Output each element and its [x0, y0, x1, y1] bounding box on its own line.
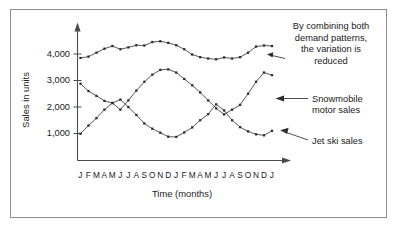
- data-point-marker: [143, 122, 145, 124]
- y-axis-title: Sales in units: [20, 72, 31, 128]
- combined-leader-arrowhead: [267, 52, 273, 57]
- data-point-marker: [239, 126, 241, 128]
- x-tick-label: N: [157, 170, 163, 180]
- data-point-marker: [199, 91, 201, 93]
- data-point-marker: [167, 136, 169, 138]
- data-point-marker: [103, 48, 105, 50]
- x-tick-label: J: [174, 170, 178, 180]
- data-point-marker: [167, 68, 169, 70]
- chart-figure: 4,000 3,000 2,000 1,000 Sales in units J…: [0, 0, 398, 229]
- data-point-marker: [143, 81, 145, 83]
- data-point-marker: [215, 103, 217, 105]
- data-point-marker: [135, 89, 137, 91]
- jetski-leader-line: [285, 132, 308, 140]
- data-point-marker: [199, 119, 201, 121]
- data-point-marker: [223, 109, 225, 111]
- data-point-marker: [127, 46, 129, 48]
- x-tick-label: A: [229, 170, 235, 180]
- x-tick-label: J: [270, 170, 274, 180]
- data-point-marker: [127, 106, 129, 108]
- series-line: [81, 41, 273, 59]
- x-tick-label: J: [78, 170, 82, 180]
- data-point-marker: [247, 93, 249, 95]
- data-point-marker: [231, 109, 233, 111]
- data-point-marker: [175, 71, 177, 73]
- x-tick-label: J: [126, 170, 130, 180]
- x-tick-label: D: [165, 170, 171, 180]
- data-point-marker: [119, 109, 121, 111]
- data-point-marker: [151, 74, 153, 76]
- data-point-marker: [231, 119, 233, 121]
- data-point-marker: [175, 136, 177, 138]
- data-series-group: [79, 40, 273, 138]
- y-tick-label-1000: 1,000: [47, 128, 70, 138]
- data-point-marker: [207, 113, 209, 115]
- data-point-marker: [271, 45, 273, 47]
- data-point-marker: [87, 124, 89, 126]
- y-tick-labels: 4,000 3,000 2,000 1,000: [47, 49, 70, 139]
- data-point-marker: [111, 102, 113, 104]
- x-tick-label: D: [261, 170, 267, 180]
- combined-annotation: By combining both demand patterns, the v…: [293, 21, 370, 66]
- x-tick-label: O: [149, 170, 156, 180]
- data-point-marker: [79, 57, 81, 59]
- x-tick-label: M: [189, 170, 196, 180]
- data-point-marker: [151, 128, 153, 130]
- data-point-marker: [247, 52, 249, 54]
- data-point-marker: [159, 40, 161, 42]
- data-point-marker: [263, 71, 265, 73]
- data-point-marker: [207, 99, 209, 101]
- data-point-marker: [183, 78, 185, 80]
- snowmobile-annotation: Snowmobile motor sales: [312, 94, 363, 116]
- data-point-marker: [135, 44, 137, 46]
- data-point-marker: [151, 41, 153, 43]
- data-point-marker: [191, 53, 193, 55]
- y-tick-label-4000: 4,000: [47, 49, 70, 59]
- data-point-marker: [223, 113, 225, 115]
- data-point-marker: [95, 52, 97, 54]
- data-point-marker: [191, 84, 193, 86]
- y-axis-arrowhead: [74, 23, 80, 32]
- x-tick-label: M: [93, 170, 100, 180]
- data-point-marker: [183, 48, 185, 50]
- series-line: [81, 69, 273, 114]
- data-point-marker: [271, 74, 273, 76]
- data-point-marker: [103, 100, 105, 102]
- data-point-marker: [127, 99, 129, 101]
- data-point-marker: [95, 117, 97, 119]
- data-point-marker: [119, 98, 121, 100]
- combined-annotation-line-4: reduced: [314, 56, 348, 66]
- data-point-marker: [223, 56, 225, 58]
- x-tick-label: M: [109, 170, 116, 180]
- data-point-marker: [199, 56, 201, 58]
- data-point-marker: [263, 44, 265, 46]
- jetski-annotation: Jet ski sales: [312, 136, 363, 146]
- x-tick-label: A: [102, 170, 108, 180]
- data-point-marker: [159, 69, 161, 71]
- x-tick-label: F: [86, 170, 91, 180]
- combined-annotation-line-3: the variation is: [301, 44, 361, 54]
- x-tick-labels: JFMAMJJASONDJFMAMJJASONDJ: [78, 170, 274, 180]
- data-point-marker: [95, 95, 97, 97]
- x-tick-label: A: [197, 170, 203, 180]
- data-point-marker: [215, 107, 217, 109]
- x-tick-label: M: [205, 170, 212, 180]
- x-tick-label: F: [182, 170, 187, 180]
- snowmobile-leader-arrowhead: [276, 95, 285, 101]
- x-tick-label: J: [222, 170, 226, 180]
- x-tick-label: N: [253, 170, 259, 180]
- x-tick-label: S: [141, 170, 147, 180]
- data-point-marker: [231, 57, 233, 59]
- y-tick-label-2000: 2,000: [47, 102, 70, 112]
- x-tick-label: A: [133, 170, 139, 180]
- data-series: [79, 40, 273, 60]
- y-tick-label-3000: 3,000: [47, 75, 70, 85]
- x-tick-label: J: [118, 170, 122, 180]
- x-axis-title: Time (months): [152, 188, 212, 199]
- axis-group: [74, 23, 291, 164]
- x-axis-arrowhead: [282, 157, 291, 163]
- data-point-marker: [175, 44, 177, 46]
- line-chart-plot: 4,000 3,000 2,000 1,000 Sales in units J…: [0, 0, 398, 229]
- data-point-marker: [183, 131, 185, 133]
- x-tick-label: O: [245, 170, 252, 180]
